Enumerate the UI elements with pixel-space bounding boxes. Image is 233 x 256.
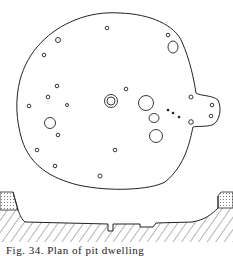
post-holes xyxy=(27,26,214,178)
figure-caption: Fig. 34. Plan of pit dwelling xyxy=(6,244,144,256)
small-stake-holes xyxy=(167,109,181,119)
pit-outline xyxy=(17,13,220,190)
section-profile xyxy=(0,192,233,242)
